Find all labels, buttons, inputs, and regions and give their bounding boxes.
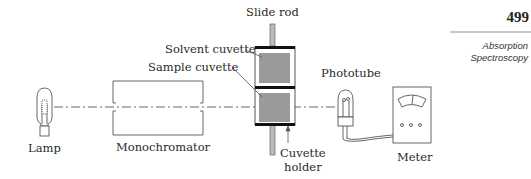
solvent-cuvette-icon (259, 53, 290, 83)
cuvette-holder-label-line2: holder (284, 161, 322, 174)
cuvette-holder-icon (255, 46, 295, 126)
section-title: Absorption Spectroscopy (470, 40, 528, 64)
phototube-label: Phototube (321, 67, 381, 80)
solvent-cuvette-label: Solvent cuvette (165, 43, 256, 56)
slide-rod-label: Slide rod (246, 6, 299, 19)
spectrophotometer-diagram (0, 0, 531, 179)
section-title-line2: Spectroscopy (470, 52, 528, 64)
lamp-label: Lamp (28, 142, 61, 155)
meter-icon (393, 87, 431, 143)
monochromator-icon (113, 81, 203, 135)
section-title-line1: Absorption (470, 40, 528, 52)
sample-cuvette-icon (259, 93, 290, 122)
monochromator-label: Monochromator (116, 141, 210, 154)
lamp-icon (37, 88, 52, 136)
meter-label: Meter (397, 151, 433, 164)
sample-cuvette-label: Sample cuvette (148, 61, 238, 74)
cuvette-holder-label-line1: Cuvette (280, 147, 326, 160)
page-number: 499 (507, 9, 530, 26)
phototube-icon (338, 90, 393, 141)
